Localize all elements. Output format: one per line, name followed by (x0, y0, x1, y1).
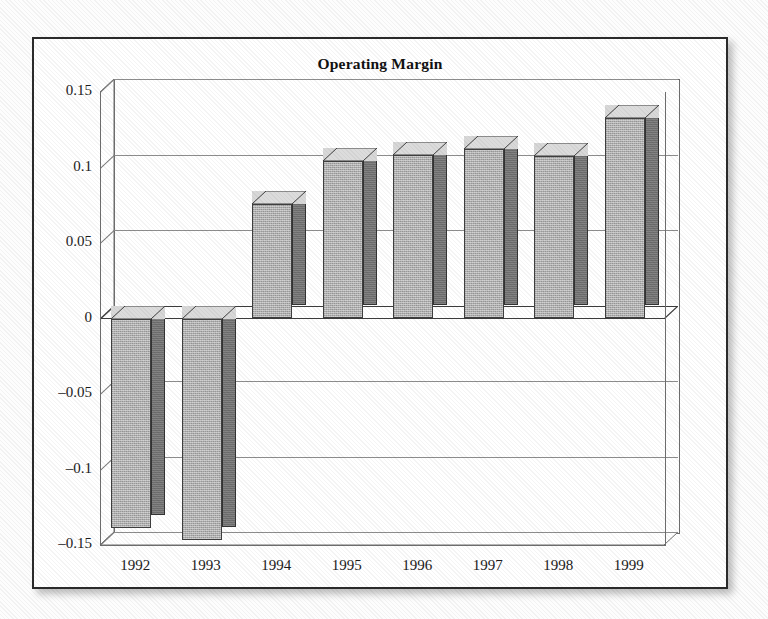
y-tick-label: 0.1 (34, 158, 92, 175)
gridline (114, 79, 678, 80)
x-tick-label-1993: 1993 (171, 557, 242, 574)
x-tick-label-1998: 1998 (523, 557, 594, 574)
x-tick-label-1996: 1996 (382, 557, 453, 574)
chart-title: Operating Margin (34, 55, 726, 73)
y-tick-label: 0.15 (34, 82, 92, 99)
chart-screenshot: Operating Margin 0. (0, 0, 768, 619)
y-tick-label: –0.1 (34, 460, 92, 477)
x-tick-label-1992: 1992 (100, 557, 171, 574)
x-tick-label-1994: 1994 (241, 557, 312, 574)
y-tick-label: –0.15 (34, 535, 92, 552)
front-axis-outline (100, 92, 666, 546)
chart-frame: Operating Margin 0. (32, 37, 728, 589)
plot-area (100, 92, 664, 545)
x-tick-label-1995: 1995 (312, 557, 383, 574)
y-tick-label: 0 (34, 309, 92, 326)
y-tick-label: –0.05 (34, 384, 92, 401)
y-tick-label: 0.05 (34, 233, 92, 250)
x-tick-label-1999: 1999 (594, 557, 665, 574)
x-tick-label-1997: 1997 (453, 557, 524, 574)
